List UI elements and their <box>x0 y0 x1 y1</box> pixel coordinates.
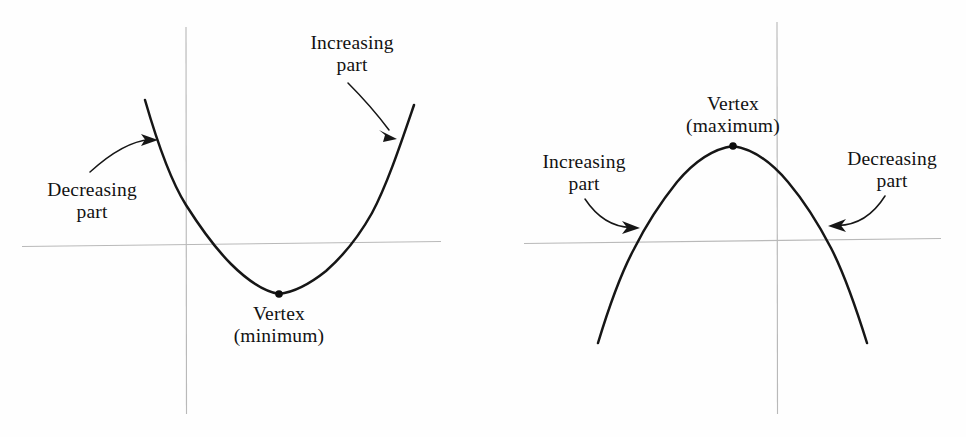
right-y-axis <box>777 22 778 414</box>
parabola-figure: Decreasing part Increasing part Vertex (… <box>0 0 966 437</box>
left-y-axis <box>186 27 187 414</box>
right-increasing-line1: Increasing <box>542 151 625 172</box>
left-vertex-line1: Vertex <box>253 303 305 324</box>
left-decreasing-line1: Decreasing <box>47 179 137 200</box>
right-increasing-pointer <box>585 199 640 234</box>
right-vertex-label: Vertex (maximum) <box>668 93 798 137</box>
left-increasing-pointer <box>348 83 397 142</box>
left-x-axis <box>22 242 441 247</box>
right-increasing-line2: part <box>534 173 634 195</box>
arrowhead-icon <box>379 130 397 142</box>
right-vertex-line1: Vertex <box>707 93 759 114</box>
right-panel-axes <box>524 22 941 414</box>
right-x-axis <box>524 239 941 244</box>
right-decreasing-label: Decreasing part <box>836 148 948 192</box>
left-vertex-line2: (minimum) <box>219 325 339 347</box>
left-decreasing-line2: part <box>36 201 148 223</box>
right-increasing-label: Increasing part <box>534 151 634 195</box>
left-increasing-line2: part <box>302 54 402 76</box>
upward-parabola-curve <box>145 100 414 294</box>
left-decreasing-label: Decreasing part <box>36 179 148 223</box>
right-decreasing-line1: Decreasing <box>847 148 937 169</box>
downward-parabola-curve <box>598 146 867 343</box>
left-increasing-label: Increasing part <box>302 32 402 76</box>
left-increasing-line1: Increasing <box>310 32 393 53</box>
right-decreasing-line2: part <box>836 170 948 192</box>
left-vertex-dot <box>275 290 283 298</box>
left-vertex-label: Vertex (minimum) <box>219 303 339 347</box>
right-vertex-line2: (maximum) <box>668 115 798 137</box>
left-decreasing-pointer <box>90 134 158 172</box>
right-vertex-dot <box>729 142 737 150</box>
right-decreasing-pointer <box>828 196 885 232</box>
